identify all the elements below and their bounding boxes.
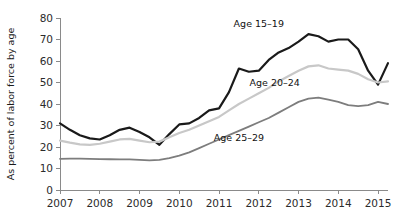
line-chart: 01020304050607080 2007200820092010201120… — [0, 0, 393, 224]
x-tick-label: 2013 — [285, 197, 312, 209]
x-tick-label: 2010 — [166, 197, 193, 209]
x-tick-label: 2012 — [245, 197, 272, 209]
y-tick-label: 60 — [40, 55, 53, 67]
series-label-age-20-24: Age 20–24 — [250, 77, 300, 88]
y-tick-label: 30 — [40, 119, 53, 131]
x-tick-label: 2007 — [47, 197, 74, 209]
y-axis-title: As percent of labor force by age — [5, 28, 16, 181]
chart-container: 01020304050607080 2007200820092010201120… — [0, 0, 393, 224]
x-tick-label: 2015 — [365, 197, 392, 209]
x-tick-label: 2008 — [86, 197, 113, 209]
x-tick-label: 2009 — [126, 197, 153, 209]
series-label-age-15-19: Age 15–19 — [234, 18, 284, 29]
y-tick-label: 50 — [40, 76, 53, 88]
y-axis-title-text: As percent of labor force by age — [5, 28, 16, 181]
x-tick-label: 2011 — [206, 197, 233, 209]
y-tick-label: 70 — [40, 33, 53, 45]
y-axis: 01020304050607080 — [40, 12, 60, 196]
y-tick-label: 40 — [40, 98, 53, 110]
y-tick-label: 10 — [40, 162, 53, 174]
y-tick-label: 0 — [46, 184, 53, 196]
y-tick-label: 20 — [40, 141, 53, 153]
y-tick-label: 80 — [40, 12, 53, 24]
series-label-age-25-29: Age 25–29 — [214, 132, 264, 143]
x-tick-label: 2014 — [325, 197, 352, 209]
